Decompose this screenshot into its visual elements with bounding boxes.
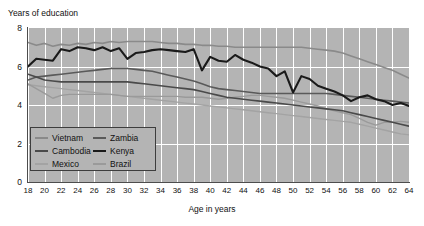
legend-item-mexico[interactable]: Mexico xyxy=(35,159,93,169)
x-tick-64: 64 xyxy=(397,186,421,195)
legend-swatch-cambodia xyxy=(35,150,48,152)
legend-item-cambodia[interactable]: Cambodia xyxy=(35,146,93,156)
y-tick-4: 4 xyxy=(0,100,22,110)
x-axis-label: Age in years xyxy=(0,204,424,214)
legend-item-vietnam[interactable]: Vietnam xyxy=(35,133,93,143)
legend-swatch-vietnam xyxy=(35,137,48,139)
legend-swatch-brazil xyxy=(93,163,106,165)
legend-label-kenya: Kenya xyxy=(110,146,134,156)
x-axis-line xyxy=(27,182,410,183)
series-line-brazil xyxy=(28,84,409,125)
legend-row: Mexico Brazil xyxy=(35,157,151,170)
legend-label-mexico: Mexico xyxy=(52,159,79,169)
legend-label-vietnam: Vietnam xyxy=(52,133,83,143)
legend-swatch-mexico xyxy=(35,163,48,165)
legend-swatch-zambia xyxy=(93,137,106,139)
legend[interactable]: Vietnam Zambia Cambodia Kenya Mexico xyxy=(30,127,156,171)
y-tick-2: 2 xyxy=(0,139,22,149)
legend-row: Cambodia Kenya xyxy=(35,144,151,157)
y-tick-8: 8 xyxy=(0,23,22,33)
legend-swatch-kenya xyxy=(93,150,106,152)
legend-item-zambia[interactable]: Zambia xyxy=(93,133,151,143)
legend-row: Vietnam Zambia xyxy=(35,131,151,144)
legend-label-brazil: Brazil xyxy=(110,159,131,169)
chart-root: Years of education 02468 182022242628303… xyxy=(0,0,424,226)
legend-item-kenya[interactable]: Kenya xyxy=(93,146,151,156)
legend-label-zambia: Zambia xyxy=(110,133,138,143)
legend-label-cambodia: Cambodia xyxy=(52,146,91,156)
y-axis-label: Years of education xyxy=(8,8,78,18)
series-line-zambia xyxy=(28,68,409,103)
legend-item-brazil[interactable]: Brazil xyxy=(93,159,151,169)
y-tick-6: 6 xyxy=(0,62,22,72)
